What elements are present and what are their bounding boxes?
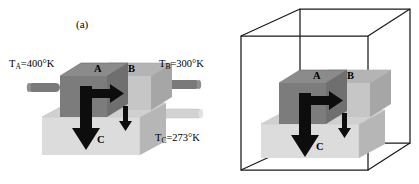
temperature-value-a: =400°K (21, 58, 54, 69)
temperature-value-b: =300°K (170, 58, 203, 69)
temperature-value-c: =273°K (166, 132, 199, 143)
temperature-subscript-a: A (15, 62, 20, 71)
temperature-subscript-c: C (161, 136, 166, 145)
block-label-b: B (128, 63, 135, 74)
block-label-a: A (313, 70, 321, 81)
block-label-a: A (94, 63, 102, 74)
panel-b: (b) (205, 0, 419, 184)
panel-b-scene (205, 0, 419, 184)
block-label-c: C (97, 134, 105, 145)
block-label-c: C (316, 141, 324, 152)
block-label-b: B (347, 70, 354, 81)
temperature-label-b: TB=300°K (159, 58, 204, 69)
temperature-subscript-b: B (165, 62, 170, 71)
rod-left-a (27, 83, 60, 92)
figure-root: (a) (0, 0, 419, 184)
temperature-label-a: TA=400°K (9, 58, 54, 69)
temperature-label-c: TC=273°K (155, 132, 200, 143)
panel-a: (a) (0, 0, 210, 184)
panel-a-scene (0, 0, 210, 184)
